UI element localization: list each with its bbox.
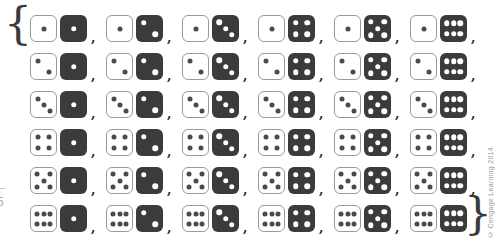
dark-die xyxy=(212,91,239,118)
pip xyxy=(351,70,356,75)
pip xyxy=(223,140,229,146)
pip xyxy=(415,172,420,177)
pip xyxy=(451,210,457,216)
pip xyxy=(47,108,52,113)
white-die xyxy=(334,53,361,80)
pip xyxy=(35,184,40,189)
separator-comma: , xyxy=(91,147,96,156)
separator-comma: , xyxy=(167,71,172,80)
outcome-pair: , xyxy=(30,129,96,156)
white-die xyxy=(182,167,209,194)
pip xyxy=(427,135,432,140)
dark-die xyxy=(212,205,239,232)
white-die xyxy=(258,15,285,42)
white-die xyxy=(334,205,361,232)
white-die xyxy=(182,205,209,232)
pip xyxy=(305,70,311,76)
pip xyxy=(188,146,193,151)
pip xyxy=(421,26,426,31)
pip xyxy=(263,221,268,226)
pip xyxy=(187,172,192,177)
pip xyxy=(111,221,116,226)
pip xyxy=(427,184,432,189)
pip xyxy=(375,102,381,108)
pip xyxy=(216,133,222,139)
outcome-pair: , xyxy=(106,205,172,232)
pip xyxy=(345,178,350,183)
dice-sample-space-figure: { ,,,,,,,,,,,,,,,,,,,,,,,,,,,,,,,,,,, } … xyxy=(0,0,496,243)
pip xyxy=(375,64,381,70)
white-die xyxy=(106,15,133,42)
pip xyxy=(223,64,229,70)
pip xyxy=(339,96,344,101)
separator-comma: , xyxy=(471,109,476,118)
pip xyxy=(263,172,268,177)
pip xyxy=(427,211,432,216)
pip xyxy=(193,221,198,226)
pip xyxy=(123,172,128,177)
outcome-pair: , xyxy=(106,53,172,80)
pip xyxy=(451,134,457,140)
pip xyxy=(111,184,116,189)
pip xyxy=(269,102,274,107)
pip xyxy=(305,96,311,102)
pip xyxy=(451,58,457,64)
dark-die xyxy=(440,167,467,194)
pip xyxy=(368,171,374,177)
pip xyxy=(229,108,235,114)
separator-comma: , xyxy=(319,109,324,118)
pip xyxy=(421,211,426,216)
white-die xyxy=(106,167,133,194)
pip xyxy=(187,221,192,226)
outcome-pair: , xyxy=(106,91,172,118)
pip xyxy=(458,172,464,178)
separator-comma: , xyxy=(319,185,324,194)
outcome-pair: , xyxy=(334,129,400,156)
pip xyxy=(275,135,280,140)
pip xyxy=(305,146,311,152)
pip xyxy=(293,108,299,114)
white-die xyxy=(182,91,209,118)
pip xyxy=(199,172,204,177)
pip xyxy=(71,64,77,70)
pip xyxy=(444,210,450,216)
pip xyxy=(382,57,388,63)
pip xyxy=(193,102,198,107)
pip xyxy=(123,108,128,113)
pip xyxy=(223,102,229,108)
pip xyxy=(71,140,77,146)
pip xyxy=(382,95,388,101)
pip xyxy=(223,26,229,32)
separator-comma: , xyxy=(319,33,324,42)
pip xyxy=(451,20,457,26)
pip xyxy=(416,135,421,140)
pip xyxy=(382,209,388,215)
pip xyxy=(345,26,350,31)
separator-comma: , xyxy=(167,109,172,118)
separator-comma: , xyxy=(91,109,96,118)
pip xyxy=(199,70,204,75)
separator-comma: , xyxy=(319,223,324,232)
pip xyxy=(458,58,464,64)
outcome-pair: , xyxy=(258,167,324,194)
outcome-pair: , xyxy=(106,167,172,194)
pip xyxy=(275,221,280,226)
pip xyxy=(199,221,204,226)
pip xyxy=(117,221,122,226)
separator-comma: , xyxy=(243,147,248,156)
pip xyxy=(187,96,192,101)
dark-die xyxy=(60,205,87,232)
white-die xyxy=(410,129,437,156)
pip xyxy=(123,184,128,189)
pip xyxy=(444,172,450,178)
pip xyxy=(351,146,356,151)
pip xyxy=(216,57,222,63)
dark-die xyxy=(440,53,467,80)
separator-comma: , xyxy=(471,71,476,80)
outcome-pair: , xyxy=(182,53,248,80)
pip xyxy=(444,58,450,64)
white-die xyxy=(30,167,57,194)
pip xyxy=(153,32,159,38)
outcome-pair: , xyxy=(30,91,96,118)
pip xyxy=(36,146,41,151)
